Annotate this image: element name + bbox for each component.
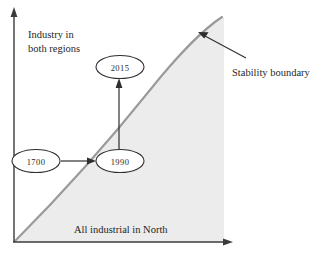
stability-boundary-label: Stability boundary	[232, 67, 311, 78]
node-1700-label: 1700	[27, 157, 46, 167]
y-axis-caption-line2: both regions	[28, 43, 80, 54]
node-1700[interactable]: 1700	[12, 150, 60, 173]
stability-boundary-diagram: 1700 1990 2015 Industry in both regions …	[0, 0, 323, 255]
node-1990[interactable]: 1990	[96, 150, 144, 173]
y-axis-caption-line1: Industry in	[28, 29, 75, 40]
arrow-1990-to-2015-head	[116, 78, 123, 88]
node-1990-label: 1990	[111, 157, 130, 167]
node-2015[interactable]: 2015	[96, 56, 144, 79]
y-axis-arrowhead	[11, 7, 18, 17]
diagram-canvas: 1700 1990 2015 Industry in both regions …	[0, 0, 323, 255]
x-axis-arrowhead	[223, 239, 233, 246]
x-axis-caption: All industrial in North	[74, 224, 168, 235]
node-2015-label: 2015	[111, 63, 130, 73]
